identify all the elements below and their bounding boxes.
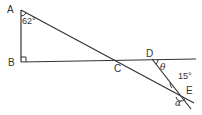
geometry-diagram: A B C D E 62° θ 15° α [0,0,202,115]
line-bcd [21,59,196,62]
label-b: B [8,57,15,68]
line-ace [21,10,194,103]
label-e: E [186,85,193,96]
angle-label-alpha: α [175,98,181,108]
angle-label-62: 62° [22,16,36,26]
angle-label-15: 15° [178,71,192,81]
label-c: C [114,63,121,74]
right-angle-b [21,57,26,62]
label-d: D [146,48,153,59]
label-a: A [7,4,14,15]
angle-label-theta: θ [160,62,166,72]
